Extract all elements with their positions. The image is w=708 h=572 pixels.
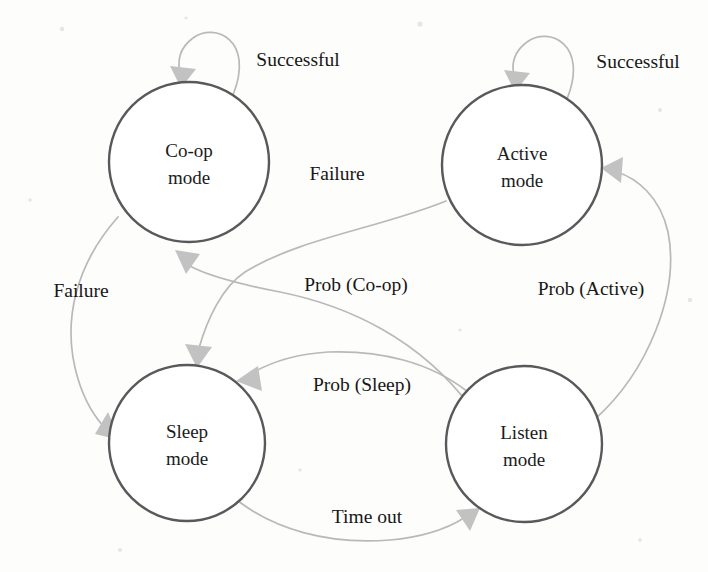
node-sleep[interactable]: Sleep mode [109,365,265,521]
node-active-circle[interactable] [442,85,602,245]
node-coop-circle[interactable] [109,82,269,242]
state-diagram: Co-op mode Active mode Sleep mode Listen… [0,0,708,572]
node-listen-label-line1: Listen [500,422,548,443]
node-active-label-line2: mode [501,170,543,191]
node-coop-label-line2: mode [168,167,210,188]
node-listen-label-line2: mode [503,449,545,470]
node-coop[interactable]: Co-op mode [109,82,269,242]
edge-label-active-self: Successful [596,51,680,72]
node-sleep-circle[interactable] [109,365,265,521]
edge-label-active-to-sleep: Failure [309,163,364,184]
node-coop-label-line1: Co-op [165,140,213,161]
edge-label-listen-to-active: Prob (Active) [538,278,645,300]
node-listen-circle[interactable] [446,366,602,522]
node-sleep-label-line1: Sleep [166,421,208,442]
edge-label-coop-to-sleep: Failure [53,280,108,301]
edge-label-sleep-to-listen: Time out [332,506,403,527]
node-active[interactable]: Active mode [442,85,602,245]
node-active-label-line1: Active [497,143,548,164]
node-sleep-label-line2: mode [166,448,208,469]
edge-label-coop-self: Successful [256,49,340,70]
edge-label-listen-to-sleep: Prob (Sleep) [313,374,411,396]
state-diagram-canvas: Co-op mode Active mode Sleep mode Listen… [0,0,708,572]
node-listen[interactable]: Listen mode [446,366,602,522]
edge-label-listen-to-coop: Prob (Co-op) [304,274,407,296]
